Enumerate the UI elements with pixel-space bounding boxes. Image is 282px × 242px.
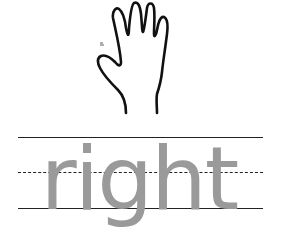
tracing-word-text: right bbox=[41, 127, 238, 230]
tracing-word: right bbox=[0, 0, 282, 242]
